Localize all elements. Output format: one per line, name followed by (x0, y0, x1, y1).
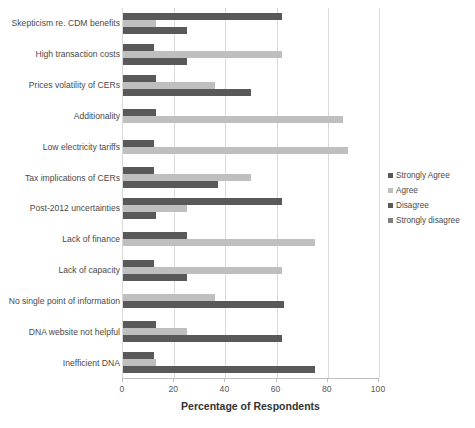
bar-group (123, 167, 378, 188)
x-tick-mark (122, 378, 123, 382)
x-tick-label: 60 (271, 384, 281, 394)
bar-group (123, 75, 378, 96)
bar (123, 116, 343, 123)
category-label: Tax implications of CERs (2, 173, 120, 183)
bar (123, 167, 154, 174)
x-tick-label: 80 (322, 384, 332, 394)
bar (123, 140, 154, 147)
bar (123, 366, 315, 373)
legend-swatch-icon (388, 173, 393, 178)
bar (123, 212, 156, 219)
bar (123, 335, 282, 342)
legend-swatch-icon (388, 218, 393, 223)
plot-area (122, 8, 378, 378)
x-tick-mark (276, 378, 277, 382)
x-tick-mark (327, 378, 328, 382)
category-label: Prices volatility of CERs (2, 80, 120, 90)
legend-label: Disagree (396, 201, 429, 211)
bar (123, 51, 282, 58)
category-label: No single point of information (2, 296, 120, 306)
bar-group (123, 294, 378, 308)
legend-item[interactable]: Agree (388, 183, 474, 198)
x-tick-mark (224, 378, 225, 382)
category-label: Lack of capacity (2, 265, 120, 275)
category-label: Skepticism re. CDM benefits (2, 18, 120, 28)
bar (123, 20, 156, 27)
bar (123, 44, 154, 51)
bar-group (123, 198, 378, 219)
category-label: Additionality (2, 111, 120, 121)
bar (123, 260, 154, 267)
bar (123, 232, 187, 239)
bar (123, 147, 348, 154)
bar (123, 359, 156, 366)
bar (123, 321, 156, 328)
legend-label: Agree (396, 186, 418, 196)
bar (123, 328, 187, 335)
bar (123, 267, 282, 274)
bar-group (123, 260, 378, 281)
bar (123, 27, 187, 34)
bar-group (123, 232, 378, 246)
legend-item[interactable]: Disagree (388, 198, 474, 213)
x-tick-label: 40 (220, 384, 230, 394)
bar (123, 58, 187, 65)
bar-group (123, 109, 378, 123)
x-tick-mark (378, 378, 379, 382)
bar-group (123, 352, 378, 373)
bar (123, 109, 156, 116)
legend-item[interactable]: Strongly Agree (388, 168, 474, 183)
bar (123, 181, 218, 188)
legend-item[interactable]: Strongly disagree (388, 213, 474, 228)
category-label: Low electricity tariffs (2, 142, 120, 152)
bar-group (123, 13, 378, 34)
bar (123, 205, 187, 212)
legend-label: Strongly disagree (396, 216, 460, 226)
legend-label: Strongly Agree (396, 171, 450, 181)
chart-legend: Strongly AgreeAgreeDisagreeStrongly disa… (388, 168, 474, 228)
category-label: Inefficient DNA (2, 358, 120, 368)
chart-container: Skepticism re. CDM benefitsHigh transact… (0, 0, 475, 428)
bar (123, 82, 215, 89)
x-tick-mark (173, 378, 174, 382)
bar (123, 274, 187, 281)
x-tick-label: 20 (168, 384, 178, 394)
x-tick-label: 0 (120, 384, 125, 394)
bar (123, 352, 154, 359)
bar (123, 198, 282, 205)
category-label: DNA website not helpful (2, 327, 120, 337)
gridline (379, 8, 380, 378)
bar (123, 75, 156, 82)
bar-group (123, 44, 378, 65)
bar (123, 89, 251, 96)
category-label: Post-2012 uncertainties (2, 203, 120, 213)
bar (123, 294, 215, 301)
bar (123, 239, 315, 246)
bar (123, 174, 251, 181)
bar (123, 301, 284, 308)
category-axis-labels: Skepticism re. CDM benefitsHigh transact… (0, 8, 120, 378)
x-axis-title: Percentage of Respondents (122, 400, 379, 412)
x-tick-label: 100 (371, 384, 385, 394)
legend-swatch-icon (388, 203, 393, 208)
category-label: Lack of finance (2, 234, 120, 244)
bar-group (123, 140, 378, 154)
bar-group (123, 321, 378, 342)
bar (123, 13, 282, 20)
x-axis-line (122, 378, 379, 379)
legend-swatch-icon (388, 188, 393, 193)
category-label: High transaction costs (2, 49, 120, 59)
